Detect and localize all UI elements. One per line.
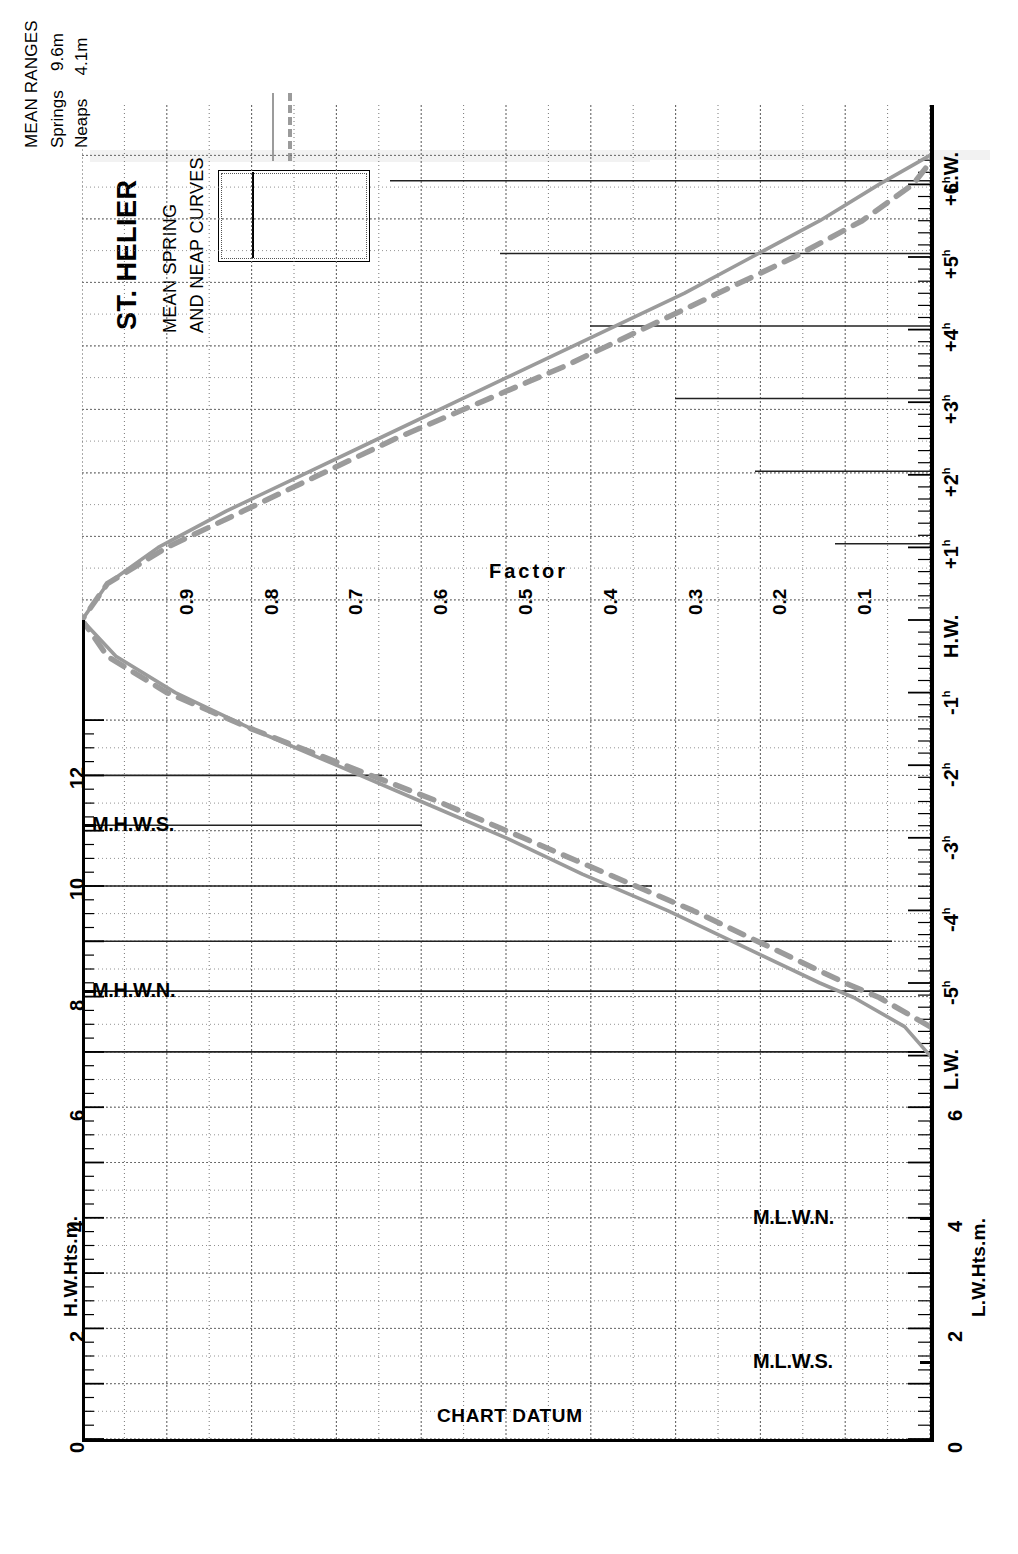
level-tick-mhws bbox=[84, 824, 96, 827]
time-tick-plus5h: +5h bbox=[940, 249, 963, 279]
time-tick-minus5h: -5h bbox=[940, 980, 963, 1005]
factor-tick-0-8: 0.8 bbox=[261, 589, 283, 615]
time-tick-minus4h: -4h bbox=[940, 907, 963, 932]
left-height-axis-label: H.W.Hts.m. bbox=[60, 1216, 82, 1317]
lw-height-tick-0: 0 bbox=[944, 1442, 967, 1453]
lw-height-tick-2: 2 bbox=[944, 1331, 967, 1342]
time-tick-plus1h: +1h bbox=[940, 539, 963, 569]
level-label-mhwn: M.H.W.N. bbox=[92, 979, 175, 1002]
tide-curves bbox=[82, 105, 933, 1442]
factor-tick-0-6: 0.6 bbox=[430, 589, 452, 615]
level-tick-mlws bbox=[920, 1361, 934, 1364]
level-tick-mhwn bbox=[84, 990, 96, 993]
time-tick-minus2h: -2h bbox=[940, 762, 963, 787]
lw-height-tick-6: 6 bbox=[944, 1110, 967, 1121]
time-tick-plus6h: +6h bbox=[940, 176, 963, 206]
lw-height-tick-4: 4 bbox=[944, 1221, 967, 1232]
legend-springs-label: Springs bbox=[48, 90, 67, 148]
hw-height-tick-2: 2 bbox=[66, 1331, 89, 1342]
time-tick-plus2h: +2h bbox=[940, 467, 963, 497]
hw-height-tick-0: 0 bbox=[66, 1442, 89, 1453]
factor-tick-0-2: 0.2 bbox=[769, 589, 791, 615]
time-tick-lw-13: L.W. bbox=[940, 1049, 963, 1090]
factor-tick-0-3: 0.3 bbox=[685, 589, 707, 615]
plot-frame-bottom bbox=[82, 1439, 933, 1442]
tidal-curve-sheet: ST. HELIER MEAN SPRING AND NEAP CURVES M… bbox=[0, 0, 1018, 1554]
time-tick-hw-7: H.W. bbox=[940, 615, 963, 658]
time-tick-plus4h: +4h bbox=[940, 322, 963, 352]
factor-tick-0-5: 0.5 bbox=[515, 589, 537, 615]
tidal-curve-plot bbox=[82, 105, 933, 1442]
level-label-mlwn: M.L.W.N. bbox=[753, 1206, 834, 1229]
factor-tick-0-4: 0.4 bbox=[600, 589, 622, 615]
level-label-mhws: M.H.W.S. bbox=[92, 813, 174, 836]
time-tick-minus1h: -1h bbox=[940, 690, 963, 715]
legend-heading: MEAN RANGES bbox=[22, 20, 42, 148]
factor-axis-label: Factor bbox=[489, 560, 568, 583]
factor-tick-0-9: 0.9 bbox=[176, 589, 198, 615]
legend-neaps-value: 4.1m bbox=[72, 38, 91, 76]
chart-datum-label: CHART DATUM bbox=[437, 1405, 583, 1427]
legend-row-springs: Springs 9.6m bbox=[48, 33, 68, 148]
level-label-mlws: M.L.W.S. bbox=[753, 1350, 833, 1373]
hw-height-tick-12: 12 bbox=[66, 767, 89, 789]
time-tick-plus3h: +3h bbox=[940, 394, 963, 424]
legend-springs-value: 9.6m bbox=[48, 33, 67, 71]
time-axis-line bbox=[930, 105, 934, 1442]
hw-height-tick-10: 10 bbox=[66, 878, 89, 900]
hw-height-tick-6: 6 bbox=[66, 1110, 89, 1121]
factor-tick-0-7: 0.7 bbox=[345, 589, 367, 615]
hw-height-tick-8: 8 bbox=[66, 1000, 89, 1011]
level-tick-mlwn bbox=[920, 1217, 934, 1220]
right-height-axis-label: L.W.Hts.m. bbox=[968, 1218, 990, 1317]
time-tick-minus3h: -3h bbox=[940, 835, 963, 860]
plot-frame-left bbox=[82, 620, 85, 1442]
factor-tick-0-1: 0.1 bbox=[854, 589, 876, 615]
